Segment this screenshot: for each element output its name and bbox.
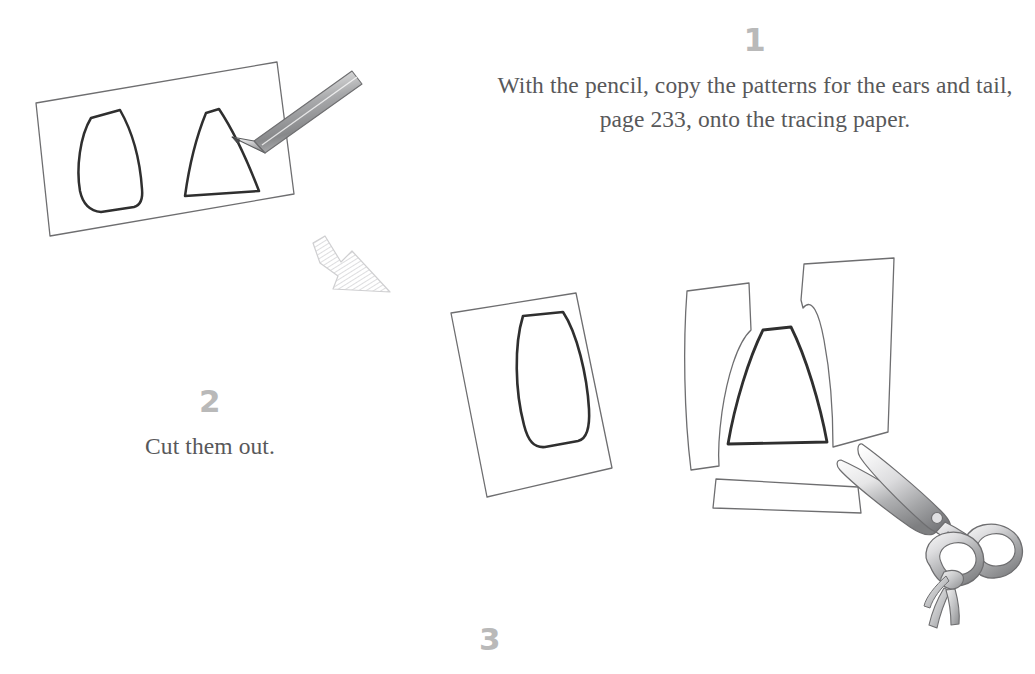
pencil-tip — [232, 137, 265, 153]
tassel-knot — [941, 570, 964, 589]
ear-pattern-outline-cut — [517, 312, 589, 447]
pencil — [232, 71, 362, 153]
scissors-pivot-screw — [932, 513, 943, 524]
scissors-lower-blade — [858, 444, 951, 534]
hatched-arrow-shape — [313, 236, 390, 292]
scissors-lower-shank — [932, 532, 963, 574]
ear-paper-sheet — [451, 293, 612, 497]
step-2-text: Cut them out. — [95, 429, 325, 463]
tail-pattern-outline-cut — [728, 327, 827, 444]
illustration-tracing-paper-with-pencil — [36, 62, 362, 236]
step-2-number: 2 — [95, 386, 325, 417]
pencil-body — [254, 71, 362, 153]
tassel-loop — [924, 576, 949, 608]
step-1-number: 1 — [455, 24, 1035, 56]
pencil-lead — [232, 137, 240, 144]
illustration-scissors — [837, 444, 1022, 628]
left-scrap-strip — [685, 283, 751, 470]
tail-pattern-outline-source — [185, 109, 259, 196]
step-2-block: 2 Cut them out. — [95, 386, 325, 463]
right-scrap-piece — [801, 258, 894, 447]
scissors-lower-handle-ring — [926, 532, 984, 586]
step-1-text: With the pencil, copy the patterns for t… — [485, 68, 1025, 136]
ear-pattern-outline-source — [78, 110, 142, 212]
pencil-highlight-line — [262, 77, 357, 145]
pencil-ferrule-line — [254, 141, 265, 153]
scissors-lower-handle-hole — [940, 543, 976, 575]
tassel-tail-right — [946, 589, 959, 625]
illustration-cut-ear-pattern — [451, 293, 612, 497]
hatched-arrow-marker — [313, 236, 390, 292]
scissors-upper-handle-ring — [964, 524, 1022, 578]
scissors-upper-handle-hole — [977, 534, 1015, 566]
scissors-upper-shank — [936, 522, 980, 557]
scissors-upper-blade — [837, 460, 938, 535]
tracing-paper-sheet — [36, 62, 294, 236]
illustration-cut-tail-pattern — [685, 258, 894, 513]
instruction-page: 1 With the pencil, copy the patterns for… — [0, 0, 1035, 674]
step-1-block: 1 With the pencil, copy the patterns for… — [455, 24, 1035, 136]
tassel-tail-left — [929, 588, 950, 628]
step-3-block: 3 — [400, 624, 580, 655]
scissors-tassel-cord — [924, 570, 963, 628]
bottom-scrap-strip — [713, 479, 861, 513]
step-3-number: 3 — [400, 624, 580, 655]
